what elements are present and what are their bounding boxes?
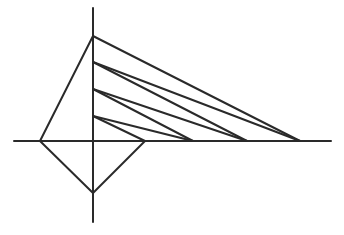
ray-lines bbox=[93, 36, 300, 141]
ray-line bbox=[93, 89, 193, 141]
geometric-construction-diagram bbox=[0, 0, 344, 235]
quad-edge bbox=[40, 141, 93, 193]
ray-line bbox=[93, 116, 193, 141]
quad-edge bbox=[93, 141, 145, 193]
ray-line bbox=[93, 62, 300, 141]
ray-line bbox=[93, 116, 145, 141]
ray-line bbox=[93, 36, 300, 141]
ray-line bbox=[93, 89, 247, 141]
quad-edge bbox=[40, 36, 93, 141]
